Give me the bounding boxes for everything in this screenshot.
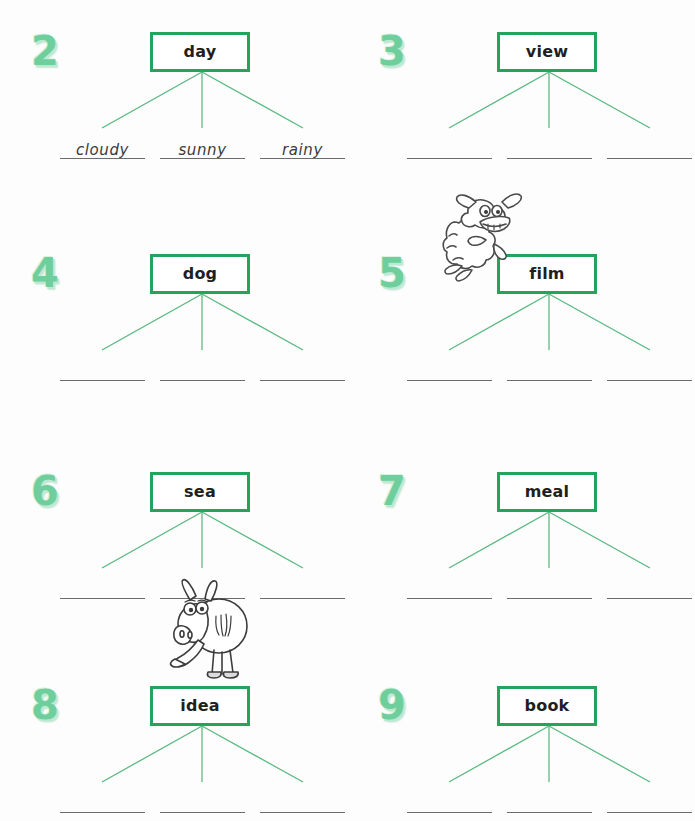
exercise-item-4: 4 dog xyxy=(0,222,347,412)
answer-lines-6 xyxy=(60,588,345,600)
answer-lines-4 xyxy=(60,370,345,382)
exercise-item-9: 9 book xyxy=(347,654,694,821)
item-number-2: 2 xyxy=(22,26,68,76)
answer-line[interactable] xyxy=(407,588,492,600)
answer-lines-9 xyxy=(407,802,692,814)
exercise-item-5: 5 film xyxy=(347,222,694,412)
answer-line[interactable] xyxy=(60,588,145,600)
word-box-5: film xyxy=(497,254,597,294)
headword-5: film xyxy=(529,266,564,282)
answer-lines-2: cloudy sunny rainy xyxy=(60,148,345,160)
answer-line[interactable] xyxy=(60,370,145,382)
word-box-7: meal xyxy=(497,472,597,512)
answer-line[interactable] xyxy=(160,802,245,814)
answer-line[interactable] xyxy=(160,588,245,600)
item-number-9: 9 xyxy=(369,680,415,730)
headword-2: day xyxy=(184,44,217,60)
answer-line[interactable] xyxy=(407,370,492,382)
answer-lines-3 xyxy=(407,148,692,160)
answer-text: cloudy xyxy=(60,143,145,158)
exercise-item-8: 8 idea xyxy=(0,654,347,821)
headword-9: book xyxy=(525,698,570,714)
exercise-item-2: 2 day cloudy sunny rainy xyxy=(0,0,347,190)
answer-lines-5 xyxy=(407,370,692,382)
word-box-4: dog xyxy=(150,254,250,294)
headword-3: view xyxy=(526,44,568,60)
branch-lines-7 xyxy=(407,510,692,572)
word-box-2: day xyxy=(150,32,250,72)
answer-line[interactable]: rainy xyxy=(260,148,345,160)
answer-line[interactable] xyxy=(607,802,692,814)
answer-line[interactable] xyxy=(507,148,592,160)
item-number-5: 5 xyxy=(369,248,415,298)
answer-line[interactable] xyxy=(507,588,592,600)
item-number-4: 4 xyxy=(22,248,68,298)
answer-line[interactable] xyxy=(407,148,492,160)
headword-6: sea xyxy=(184,484,216,500)
answer-line[interactable] xyxy=(507,370,592,382)
exercise-item-6: 6 sea xyxy=(0,440,347,630)
branch-lines-4 xyxy=(60,292,345,354)
headword-4: dog xyxy=(183,266,218,282)
exercise-item-7: 7 meal xyxy=(347,440,694,630)
word-box-6: sea xyxy=(150,472,250,512)
headword-7: meal xyxy=(525,484,570,500)
answer-text: rainy xyxy=(260,143,345,158)
item-number-3: 3 xyxy=(369,26,415,76)
branch-lines-5 xyxy=(407,292,692,354)
branch-lines-3 xyxy=(407,70,692,132)
worksheet-page: 2 day cloudy sunny rainy 3 view xyxy=(0,0,695,821)
branch-lines-8 xyxy=(60,724,345,786)
exercise-item-3: 3 view xyxy=(347,0,694,190)
answer-line[interactable]: sunny xyxy=(160,148,245,160)
item-number-8: 8 xyxy=(22,680,68,730)
branch-lines-9 xyxy=(407,724,692,786)
answer-line[interactable] xyxy=(160,370,245,382)
answer-line[interactable] xyxy=(607,588,692,600)
branch-lines-2 xyxy=(60,70,345,132)
word-box-9: book xyxy=(497,686,597,726)
answer-line[interactable] xyxy=(260,588,345,600)
item-number-7: 7 xyxy=(369,466,415,516)
answer-line[interactable]: cloudy xyxy=(60,148,145,160)
answer-line[interactable] xyxy=(60,802,145,814)
answer-line[interactable] xyxy=(607,370,692,382)
word-box-8: idea xyxy=(150,686,250,726)
word-box-3: view xyxy=(497,32,597,72)
answer-text: sunny xyxy=(160,143,245,158)
headword-8: idea xyxy=(180,698,219,714)
answer-line[interactable] xyxy=(607,148,692,160)
answer-line[interactable] xyxy=(507,802,592,814)
answer-lines-8 xyxy=(60,802,345,814)
answer-line[interactable] xyxy=(260,802,345,814)
branch-lines-6 xyxy=(60,510,345,572)
answer-lines-7 xyxy=(407,588,692,600)
answer-line[interactable] xyxy=(407,802,492,814)
item-number-6: 6 xyxy=(22,466,68,516)
answer-line[interactable] xyxy=(260,370,345,382)
